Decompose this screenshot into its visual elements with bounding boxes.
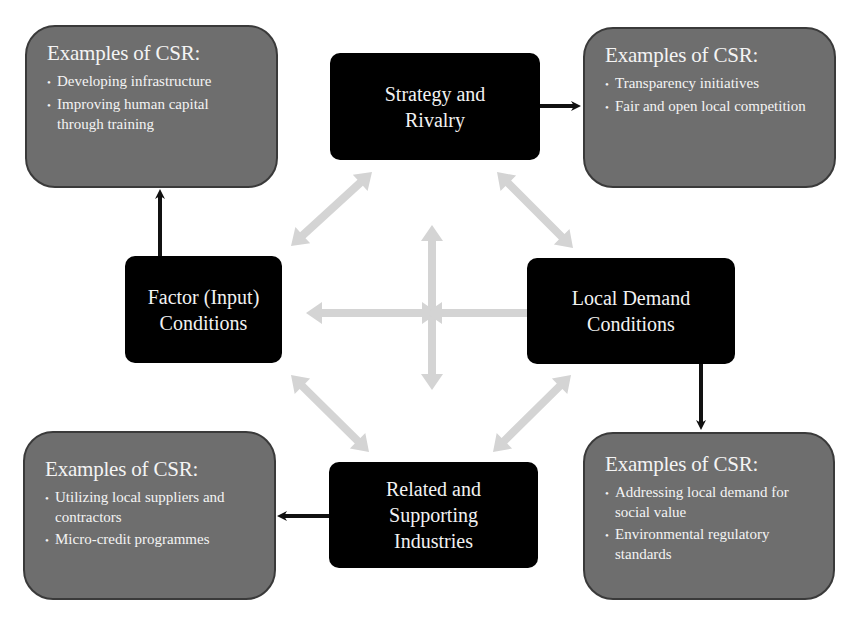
node-label-line: Conditions — [148, 310, 260, 336]
node-label-line: Factor (Input) — [148, 284, 260, 310]
gray-arrow-factor-related — [291, 375, 369, 452]
csr-item: Utilizing local suppliers and contractor… — [45, 488, 256, 527]
csr-title: Examples of CSR: — [47, 41, 258, 66]
node-strategy-and-rivalry: Strategy andRivalry — [330, 53, 540, 160]
csr-item: Developing infrastructure — [47, 72, 258, 92]
csr-item: Addressing local demand for social value — [605, 483, 815, 522]
csr-box-bottom-left: Examples of CSR: Utilizing local supplie… — [23, 431, 276, 600]
csr-title: Examples of CSR: — [605, 452, 815, 477]
node-factor-conditions: Factor (Input)Conditions — [125, 256, 282, 363]
csr-item: Micro-credit programmes — [45, 530, 256, 550]
node-label-line: Strategy and — [385, 81, 486, 107]
gray-arrow-strategy-factor — [291, 172, 372, 246]
csr-box-top-left: Examples of CSR: Developing infrastructu… — [25, 25, 278, 188]
node-related-supporting-industries: Related andSupportingIndustries — [329, 462, 538, 568]
csr-title: Examples of CSR: — [605, 43, 816, 68]
csr-box-bottom-right: Examples of CSR: Addressing local demand… — [583, 432, 835, 600]
node-label-line: Supporting — [386, 502, 481, 528]
node-label-line: Industries — [386, 528, 481, 554]
node-label-line: Rivalry — [385, 107, 486, 133]
csr-item: Environmental regulatory standards — [605, 525, 815, 564]
gray-arrow-center-horizontal-left — [306, 302, 438, 324]
node-label-line: Conditions — [572, 311, 690, 337]
csr-box-top-right: Examples of CSR: Transparency initiative… — [583, 27, 836, 188]
gray-arrow-strategy-demand — [497, 172, 573, 248]
csr-item: Improving human capital through training — [47, 95, 258, 134]
gray-arrow-demand-related — [493, 375, 571, 452]
csr-title: Examples of CSR: — [45, 457, 256, 482]
node-local-demand-conditions: Local DemandConditions — [527, 258, 735, 364]
csr-item: Transparency initiatives — [605, 74, 816, 94]
node-label-line: Related and — [386, 476, 481, 502]
node-label-line: Local Demand — [572, 285, 690, 311]
csr-item: Fair and open local competition — [605, 97, 816, 117]
